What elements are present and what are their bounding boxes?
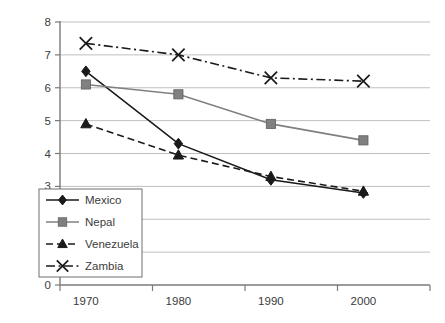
data-point [174,138,182,149]
y-tick-label: 0 [45,279,51,291]
y-tick-label: 8 [45,16,51,28]
legend-label-zambia: Zambia [85,260,124,272]
line-chart: 012345678 1970198019902000 MexicoNepalVe… [0,0,445,323]
series-nepal [81,80,368,145]
series-venezuela [81,119,369,196]
legend-marker-nepal [58,218,66,226]
chart-legend: MexicoNepalVenezuelaZambia [39,189,142,277]
data-point [81,119,91,128]
data-point [358,186,368,195]
data-point [359,136,368,145]
x-tick-label: 1980 [166,295,192,307]
data-point [174,90,183,99]
y-tick-label: 4 [45,148,52,160]
x-tick-label: 1990 [258,295,284,307]
x-tick-label: 2000 [351,295,377,307]
y-tick-label: 6 [45,82,51,94]
y-tick-label: 5 [45,115,51,127]
series-zambia [80,37,370,87]
data-point [266,119,275,128]
y-tick-label: 7 [45,49,51,61]
legend-label-mexico: Mexico [85,194,121,206]
data-point [82,66,90,77]
cut-off-caption [0,317,445,323]
x-tick-label: 1970 [73,295,99,307]
x-axis: 1970198019902000 [60,285,430,307]
legend-label-venezuela: Venezuela [85,238,139,250]
data-series-group [80,37,370,198]
legend-label-nepal: Nepal [85,216,115,228]
series-mexico [82,66,368,198]
chart-container: 012345678 1970198019902000 MexicoNepalVe… [0,0,445,323]
data-point [81,80,90,89]
